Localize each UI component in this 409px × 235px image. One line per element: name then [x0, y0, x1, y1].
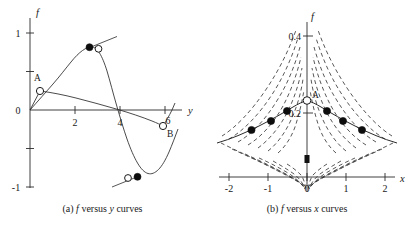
panel-a-point-label-A: A: [34, 73, 41, 83]
panel-a-svg: 1 0 -1 2 4 6 f y: [0, 0, 205, 200]
panel-a-xlabel-2: 2: [73, 117, 78, 128]
panel-a-point-label-B: B: [167, 129, 173, 139]
panel-a-f-versus-y: 1 0 -1 2 4 6 f y: [0, 0, 205, 200]
caption-b-mid: versus: [286, 203, 312, 214]
panel-b-dashed-upper-right: [310, 30, 392, 153]
panel-a-marker-trough-filled: [134, 173, 141, 180]
panel-a-ylabel-neg1: -1: [12, 182, 20, 193]
panel-b-ylabel-0_4: 0.4: [289, 31, 302, 42]
panel-a-axis-label-y: y: [187, 105, 193, 116]
panel-a-shallow-curve: [30, 91, 163, 126]
caption-b-var: x: [314, 203, 318, 214]
panel-b-marker-dot-3: [283, 107, 290, 114]
panel-b-marker-A: [303, 97, 311, 105]
caption-a-var: y: [109, 203, 113, 214]
caption-b-suffix: curves: [321, 203, 347, 214]
caption-a-f: f: [76, 203, 79, 214]
caption-b-prefix: (b): [267, 203, 279, 214]
figure-container: 1 0 -1 2 4 6 f y: [0, 0, 409, 235]
panel-b-xlabel-neg1: -1: [264, 183, 272, 194]
panel-b-xlabel-0: 0: [305, 183, 310, 194]
caption-a-suffix: curves: [116, 203, 142, 214]
caption-a-prefix: (a): [62, 203, 73, 214]
panel-b-dashed-upper-left: [222, 30, 304, 153]
panel-a-ylabel-0: 0: [16, 105, 21, 116]
panel-b-axis-label-f: f: [311, 11, 316, 22]
caption-a-mid: versus: [81, 203, 107, 214]
panel-b-f-versus-x: -2 -1 0 1 2 0.4 0.2 f x A: [205, 0, 409, 200]
caption-panel-a: (a) f versus y curves: [0, 203, 205, 214]
caption-panel-b: (b) f versus x curves: [205, 203, 409, 214]
panel-b-point-label-A: A: [312, 90, 319, 100]
panel-a-tangent-upper: [92, 37, 118, 47]
caption-b-f: f: [281, 203, 284, 214]
panel-b-xlabel-2: 2: [383, 183, 388, 194]
panel-b-svg: -2 -1 0 1 2 0.4 0.2 f x A: [205, 0, 409, 200]
panel-b-axis-node: [305, 155, 310, 163]
panel-b-marker-dot-5: [339, 117, 346, 124]
panel-a-marker-B: [159, 122, 166, 129]
panel-b-xlabel-1: 1: [344, 183, 349, 194]
panel-a-marker-A: [36, 87, 43, 94]
panel-a-ylabel-1: 1: [16, 28, 21, 39]
panel-a-marker-trough-open: [125, 175, 132, 182]
panel-a-marker-peak-filled: [86, 44, 93, 51]
panel-a-marker-peak-open: [95, 45, 102, 52]
panel-a-axis-label-f: f: [36, 7, 41, 18]
panel-b-xlabel-neg2: -2: [225, 183, 233, 194]
panel-b-dashed-lower-right: [308, 143, 393, 190]
panel-b-marker-dot-1: [248, 126, 255, 133]
panel-b-marker-dot-4: [323, 107, 330, 114]
panel-b-axis-label-x: x: [399, 173, 405, 184]
panel-b-marker-dot-6: [358, 126, 365, 133]
panel-b-marker-dot-2: [267, 117, 274, 124]
